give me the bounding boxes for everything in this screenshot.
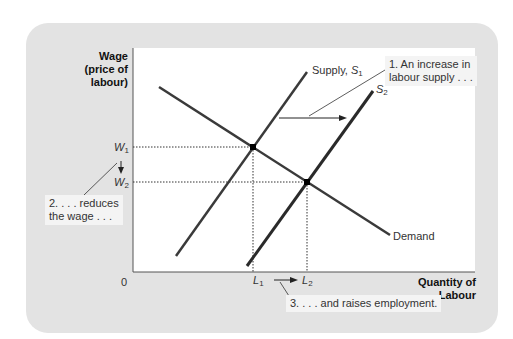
qty-label-l1: L1: [253, 274, 264, 290]
w1-var: W: [114, 141, 124, 153]
callout-reduces-wage: 2. . . . reduces the wage . . .: [45, 195, 123, 225]
qty-label-l2: L2: [302, 274, 313, 290]
callout-raises-employment: 3. . . . and raises employment.: [286, 295, 441, 312]
equilibrium-point-2: [304, 179, 310, 185]
callout-1-line-1: 1. An increase in: [389, 58, 473, 71]
callout-2-leader: [84, 163, 117, 195]
callout-2-line-2: the wage . . .: [49, 210, 119, 223]
x-axis-label-line-1: Quantity of: [400, 276, 476, 289]
callout-supply-increase: 1. An increase in labour supply . . .: [385, 56, 477, 86]
s1-label-text: Supply,: [312, 64, 351, 76]
callout-1-line-2: labour supply . . .: [389, 71, 473, 84]
wage-label-w1: W1: [114, 141, 129, 157]
employment-arrow-head: [290, 277, 298, 283]
equilibrium-point-1: [250, 144, 256, 150]
y-axis-label-line-3: labour): [60, 76, 128, 89]
w2-sub: 2: [124, 181, 128, 190]
w2-var: W: [114, 176, 124, 188]
demand-label: Demand: [393, 230, 435, 243]
y-axis-label-line-2: (price of: [60, 63, 128, 76]
y-axis-label-line-1: Wage: [60, 50, 128, 63]
callout-2-line-1: 2. . . . reduces: [49, 197, 119, 210]
wage-label-w2: W2: [114, 176, 129, 192]
callout-3-leader: [280, 282, 289, 296]
s1-sub: 1: [358, 69, 362, 78]
origin-label: 0: [121, 276, 127, 289]
s2-sub: 2: [383, 88, 387, 97]
supply-s1-label: Supply, S1: [312, 64, 363, 80]
l1-sub: 1: [259, 279, 263, 288]
wage-arrow-head: [118, 167, 124, 174]
y-axis-label: Wage (price of labour): [60, 50, 128, 89]
w1-sub: 1: [124, 146, 128, 155]
callout-3-line-1: 3. . . . and raises employment.: [290, 297, 437, 310]
l2-sub: 2: [308, 279, 312, 288]
